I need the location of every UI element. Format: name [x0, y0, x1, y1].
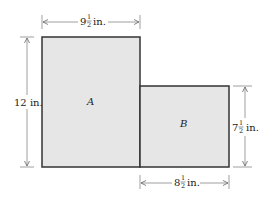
svg-text:2: 2 — [181, 182, 185, 190]
dimension-right-height: 7 1 2 in. — [232, 86, 268, 167]
composite-rectangle-diagram: A B 9 1 2 in. 12 in. 7 1 2 in. — [0, 0, 270, 200]
svg-text:1: 1 — [87, 13, 91, 21]
svg-text:2: 2 — [239, 127, 243, 135]
svg-text:1: 1 — [239, 119, 243, 127]
svg-text:in.: in. — [187, 177, 200, 188]
svg-text:2: 2 — [87, 21, 91, 29]
svg-text:12 in.: 12 in. — [14, 97, 43, 108]
dimension-top-width: 9 1 2 in. — [42, 13, 140, 29]
svg-text:in.: in. — [246, 122, 259, 133]
dimension-bottom-width: 8 1 2 in. — [140, 174, 229, 190]
svg-text:7: 7 — [232, 122, 238, 133]
label-b: B — [179, 118, 187, 129]
svg-text:in.: in. — [93, 16, 106, 27]
svg-text:1: 1 — [181, 174, 185, 182]
label-a: A — [86, 96, 94, 107]
dimension-left-height: 12 in. — [14, 37, 43, 167]
svg-text:9: 9 — [80, 16, 86, 27]
svg-text:8: 8 — [174, 177, 180, 188]
